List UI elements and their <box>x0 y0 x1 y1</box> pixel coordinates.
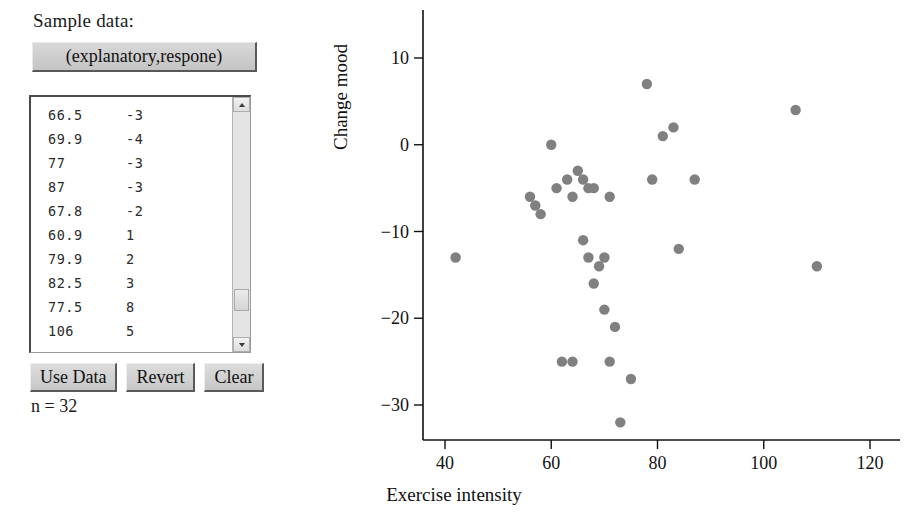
scatter-point <box>562 174 572 184</box>
data-row-y: 8 <box>126 295 135 319</box>
data-row-y: 3 <box>126 271 135 295</box>
clear-button[interactable]: Clear <box>204 363 264 392</box>
data-row[interactable]: 82.53 <box>31 271 232 295</box>
scatter-point <box>583 252 593 262</box>
scatter-point <box>546 140 556 150</box>
x-axis-tick-label: 60 <box>542 453 560 473</box>
scatter-point <box>578 235 588 245</box>
scatter-point <box>790 105 800 115</box>
scatter-point <box>530 200 540 210</box>
scroll-down-arrow-icon[interactable] <box>233 337 250 352</box>
y-axis-tick-label: 0 <box>400 135 409 155</box>
x-axis-tick-label: 120 <box>857 453 884 473</box>
scatter-point <box>604 192 614 202</box>
data-rows-container[interactable]: 66.5-369.9-477-387-367.8-260.9179.9282.5… <box>31 97 232 352</box>
data-row[interactable]: 77-3 <box>31 151 232 175</box>
data-row-x: 106 <box>48 319 126 343</box>
data-row-y: -2 <box>126 199 143 223</box>
y-axis-tick-label: −10 <box>381 222 409 242</box>
scatter-point <box>647 174 657 184</box>
data-row[interactable]: 66.5-3 <box>31 103 232 127</box>
data-row-y: 2 <box>126 247 135 271</box>
data-row-y: 1 <box>126 223 135 247</box>
triangle-up-icon <box>239 103 245 107</box>
scatter-point <box>551 183 561 193</box>
scatter-plot-svg: 100−10−20−30406080100120 <box>330 0 908 524</box>
data-list[interactable]: 66.5-369.9-477-387-367.8-260.9179.9282.5… <box>29 95 251 353</box>
scatter-point <box>599 252 609 262</box>
data-row-x: 66.5 <box>48 103 126 127</box>
data-row-y: -3 <box>126 175 143 199</box>
scatter-point <box>450 252 460 262</box>
scatter-point <box>812 261 822 271</box>
scatter-point <box>578 174 588 184</box>
data-row[interactable]: 69.9-4 <box>31 127 232 151</box>
scroll-up-arrow-icon[interactable] <box>233 97 250 112</box>
scatter-point <box>658 131 668 141</box>
scatter-point <box>589 278 599 288</box>
data-row[interactable]: 1065 <box>31 319 232 343</box>
data-row[interactable]: 87-3 <box>31 175 232 199</box>
x-axis-title: Exercise intensity <box>0 484 908 506</box>
data-row-x: 77.5 <box>48 295 126 319</box>
triangle-down-icon <box>239 343 245 347</box>
y-axis-title: Change mood <box>330 44 352 150</box>
scatter-point <box>689 174 699 184</box>
scatter-point <box>668 122 678 132</box>
scrollbar-thumb[interactable] <box>234 289 249 311</box>
data-row-y: -4 <box>126 127 143 151</box>
scatter-point <box>567 356 577 366</box>
scatter-point <box>589 183 599 193</box>
data-row-y: -3 <box>126 151 143 175</box>
scatter-point <box>615 417 625 427</box>
y-axis-tick-label: −20 <box>381 308 409 328</box>
sample-size-label: n = 32 <box>31 396 77 417</box>
data-row-x: 67.8 <box>48 199 126 223</box>
scatter-point <box>594 261 604 271</box>
revert-button[interactable]: Revert <box>126 363 195 392</box>
scatter-point <box>674 244 684 254</box>
data-row[interactable]: 67.8-2 <box>31 199 232 223</box>
data-row-x: 82.5 <box>48 271 126 295</box>
x-axis-tick-label: 80 <box>649 453 667 473</box>
data-row[interactable]: 77.58 <box>31 295 232 319</box>
control-button-row: Use Data Revert Clear <box>30 363 264 392</box>
data-row-x: 60.9 <box>48 223 126 247</box>
data-row-y: -3 <box>126 103 143 127</box>
scatter-point <box>642 79 652 89</box>
explanatory-response-header-button[interactable]: (explanatory,respone) <box>32 42 257 72</box>
data-row-x: 79.9 <box>48 247 126 271</box>
y-axis-tick-label: 10 <box>391 48 409 68</box>
x-axis-tick-label: 100 <box>750 453 777 473</box>
data-row-x: 69.9 <box>48 127 126 151</box>
scatter-plot: 100−10−20−30406080100120 <box>330 0 908 524</box>
scatter-point <box>567 192 577 202</box>
sample-data-panel: Sample data: (explanatory,respone) 66.5-… <box>0 0 330 460</box>
scatter-point <box>604 356 614 366</box>
scatter-point <box>557 356 567 366</box>
data-row-x: 87 <box>48 175 126 199</box>
data-row-x: 77 <box>48 151 126 175</box>
scatter-point <box>610 322 620 332</box>
y-axis-tick-label: −30 <box>381 395 409 415</box>
use-data-button[interactable]: Use Data <box>30 363 117 392</box>
app-root: Sample data: (explanatory,respone) 66.5-… <box>0 0 908 524</box>
scatter-point <box>535 209 545 219</box>
data-row[interactable]: 79.92 <box>31 247 232 271</box>
data-row[interactable]: 60.91 <box>31 223 232 247</box>
scatter-point <box>573 166 583 176</box>
scatter-point <box>599 304 609 314</box>
data-list-scrollbar[interactable] <box>232 97 250 352</box>
scatter-point <box>525 192 535 202</box>
figure-caption-strip <box>0 512 908 524</box>
x-axis-tick-label: 40 <box>436 453 454 473</box>
scatter-point <box>626 374 636 384</box>
data-row-y: 5 <box>126 319 135 343</box>
sample-data-heading: Sample data: <box>33 10 134 32</box>
